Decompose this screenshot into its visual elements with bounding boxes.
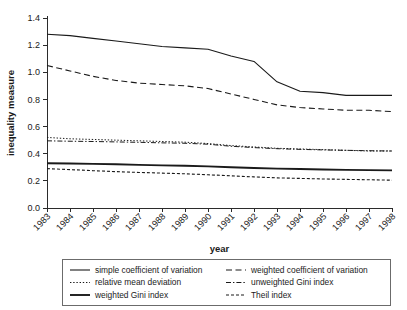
x-tick-label: 1991 [215, 211, 236, 232]
x-tick-label: 1992 [238, 211, 259, 232]
x-tick-label: 1987 [123, 211, 144, 232]
x-tick-label: 1984 [54, 211, 75, 232]
y-tick-label: 0.0 [27, 203, 40, 213]
series-line [47, 137, 392, 151]
inequality-measure-line-chart: 0.00.20.40.60.81.01.21.41983198419851986… [0, 0, 407, 310]
x-axis-ticks: 1983198419851986198719881989199019911992… [31, 208, 397, 233]
series-line [47, 163, 392, 170]
chart-container: 0.00.20.40.60.81.01.21.41983198419851986… [0, 0, 407, 310]
x-tick-label: 1986 [100, 211, 121, 232]
x-tick-label: 1996 [330, 211, 351, 232]
series-line [47, 141, 392, 151]
y-tick-label: 0.6 [27, 122, 40, 132]
legend-label: weighted coefficient of variation [250, 265, 368, 275]
x-tick-label: 1993 [261, 211, 282, 232]
legend-label: unweighted Gini index [251, 277, 334, 287]
x-tick-label: 1994 [284, 211, 305, 232]
y-tick-label: 0.4 [27, 149, 40, 159]
legend-label: Theil index [251, 290, 292, 300]
x-tick-label: 1989 [169, 211, 190, 232]
axis-frame [47, 16, 392, 208]
series-line [47, 66, 392, 112]
x-tick-label: 1983 [31, 211, 52, 232]
y-tick-label: 0.2 [27, 176, 40, 186]
y-tick-label: 1.4 [27, 13, 40, 23]
plot-area: 0.00.20.40.60.81.01.21.41983198419851986… [5, 13, 397, 305]
legend-label: simple coefficient of variation [95, 265, 203, 275]
x-tick-label: 1988 [146, 211, 167, 232]
legend: simple coefficient of variationweighted … [62, 259, 390, 305]
y-axis-ticks: 0.00.20.40.60.81.01.21.4 [27, 13, 47, 213]
x-tick-label: 1997 [353, 211, 374, 232]
legend-label: weighted Gini index [94, 290, 169, 300]
y-tick-label: 1.0 [27, 67, 40, 77]
x-tick-label: 1998 [376, 211, 397, 232]
series-group [47, 34, 392, 180]
axes [47, 16, 392, 208]
y-axis-title: inequality measure [5, 70, 16, 156]
series-line [47, 34, 392, 95]
y-tick-label: 1.2 [27, 40, 40, 50]
legend-label: relative mean deviation [95, 277, 181, 287]
x-axis-title: year [210, 243, 230, 254]
x-tick-label: 1990 [192, 211, 213, 232]
x-tick-label: 1995 [307, 211, 328, 232]
x-tick-label: 1985 [77, 211, 98, 232]
y-tick-label: 0.8 [27, 95, 40, 105]
